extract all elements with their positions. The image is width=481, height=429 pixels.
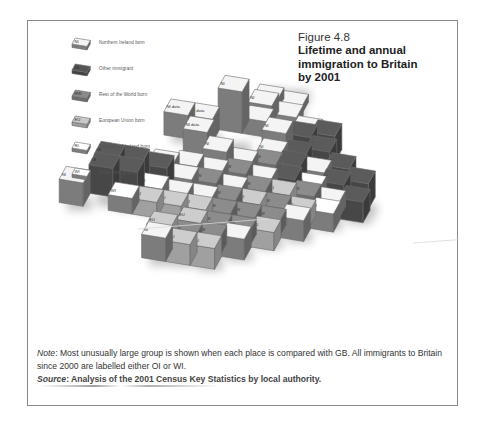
block-label: NI <box>75 38 79 43</box>
block-label: NI <box>259 144 263 149</box>
legend-label: European Union born <box>99 118 145 123</box>
legend-item-wi: WIWhite immigrant <box>72 159 150 185</box>
legend-item-rw: RWRest of the World born <box>72 81 150 107</box>
block-label: RI <box>75 142 79 147</box>
block-front-face <box>142 234 166 261</box>
block-label: EU <box>75 116 81 121</box>
block-front-face <box>218 88 242 133</box>
block-label: NI data <box>166 104 180 109</box>
legend-swatch: OI <box>72 63 91 74</box>
block-label: NI <box>250 95 254 100</box>
legend-label: Rest of the World born <box>99 92 147 97</box>
legend-item-ni: NINorthern Ireland born <box>72 29 150 55</box>
block-label: RW <box>75 90 82 95</box>
figure-title-line: Lifetime and annual <box>298 44 448 58</box>
legend-swatch: WI <box>72 167 91 178</box>
legend-block: EU <box>72 116 90 128</box>
figure-title: Lifetime and annual immigration to Brita… <box>298 44 448 85</box>
block-label: OI <box>75 64 79 69</box>
note-text: : Most unusually large group is shown wh… <box>37 348 442 371</box>
block-label: WI <box>75 168 80 173</box>
scan-streak <box>413 239 459 243</box>
legend-label: Northern Ireland born <box>99 40 145 45</box>
legend-item-ri: RIRepublic of Ireland born <box>72 133 150 159</box>
block-label: EU <box>149 217 155 222</box>
note-label: Note <box>37 348 55 358</box>
legend-label: Republic of Ireland born <box>99 144 150 149</box>
legend-item-oi: OIOther immigrant <box>72 55 150 81</box>
figure-title-line: by 2001 <box>298 71 448 85</box>
figure-heading: Figure 4.8 Lifetime and annual immigrati… <box>298 31 448 85</box>
scan-artifact <box>40 385 220 387</box>
map-block-ni: NI <box>218 75 249 133</box>
legend-item-eu: EUEuropean Union born <box>72 107 150 133</box>
block-label: NI <box>264 123 268 128</box>
legend-block: RW <box>72 90 90 102</box>
legend-label: White immigrant <box>99 170 134 175</box>
legend-label: Other immigrant <box>99 66 133 71</box>
legend-block: WI <box>72 168 90 180</box>
block-label: WI <box>111 188 116 193</box>
block-label: NI <box>205 141 209 146</box>
figure-title-line: immigration to Britain <box>298 58 448 72</box>
figure-number: Figure 4.8 <box>298 31 448 44</box>
figure-frame: NININININININIOIOININI dataNI dataOIOINI… <box>27 20 458 406</box>
block-label: NI data <box>186 122 200 127</box>
map-block-wi: WI <box>108 182 139 214</box>
block-label: NI <box>62 172 66 177</box>
block-label: EU <box>179 212 185 217</box>
legend: NINorthern Ireland bornOIOther immigrant… <box>72 29 150 185</box>
source-label: Source <box>37 374 66 384</box>
note: Note: Most unusually large group is show… <box>37 347 453 373</box>
legend-block: NI <box>72 38 90 50</box>
figure-notes: Note: Most unusually large group is show… <box>37 347 453 386</box>
legend-swatch: NI <box>72 37 91 48</box>
source-text: : Analysis of the 2001 Census Key Statis… <box>66 374 321 384</box>
legend-block: RI <box>72 142 90 154</box>
legend-swatch: EU <box>72 115 91 126</box>
legend-block: OI <box>72 64 90 76</box>
block-label: NI <box>221 81 225 86</box>
legend-swatch: RI <box>72 141 91 152</box>
legend-swatch: RW <box>72 89 91 100</box>
